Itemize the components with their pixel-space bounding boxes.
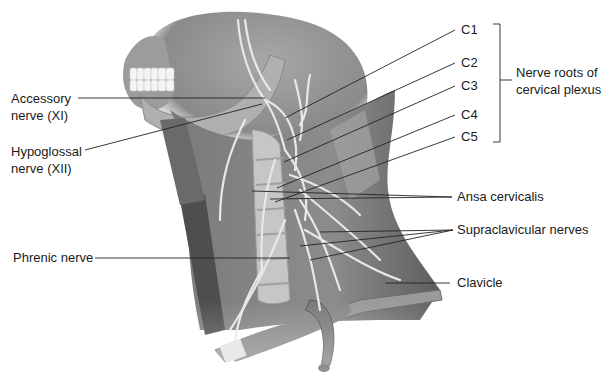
- label-hypoglossal-nerve: Hypoglossal nerve (XII): [11, 143, 82, 177]
- label-supraclavicular-nerves: Supraclavicular nerves: [457, 222, 589, 238]
- label-bracket-line2: cervical plexus: [516, 81, 601, 98]
- label-c1: C1: [461, 22, 478, 38]
- label-c3: C3: [461, 78, 478, 94]
- teeth: [130, 68, 174, 91]
- label-c2: C2: [461, 55, 478, 71]
- label-accessory-line2: nerve (XI): [11, 107, 71, 124]
- label-ansa-cervicalis: Ansa cervicalis: [457, 189, 544, 205]
- label-c4: C4: [461, 107, 478, 123]
- label-accessory-line1: Accessory: [11, 90, 71, 107]
- label-accessory-nerve: Accessory nerve (XI): [11, 90, 71, 124]
- label-clavicle: Clavicle: [457, 275, 503, 291]
- label-c5: C5: [461, 129, 478, 145]
- label-phrenic-nerve: Phrenic nerve: [13, 250, 93, 266]
- label-hypoglossal-line2: nerve (XII): [11, 160, 82, 177]
- label-bracket-line1: Nerve roots of: [516, 64, 601, 81]
- label-hypoglossal-line1: Hypoglossal: [11, 143, 82, 160]
- label-nerve-roots-bracket: Nerve roots of cervical plexus: [516, 64, 601, 98]
